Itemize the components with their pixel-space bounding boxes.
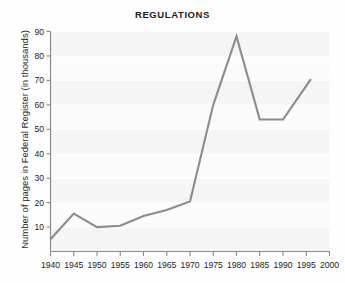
x-tick-label: 1985 (250, 260, 269, 270)
x-tick-label: 1955 (111, 260, 130, 270)
y-tick-label: 10 (34, 222, 44, 232)
y-tick-label: 70 (34, 75, 44, 85)
x-tick-label: 1945 (64, 260, 83, 270)
y-tick-label: 60 (34, 100, 44, 110)
x-tick-label: 2000 (320, 260, 339, 270)
x-tick-label: 1995 (297, 260, 316, 270)
x-tick-label: 1960 (134, 260, 153, 270)
x-tick-label: 1970 (180, 260, 199, 270)
plot-canvas: 102030405060708090 194019451950195519601… (0, 0, 345, 283)
x-axis (51, 252, 330, 257)
y-tick-labels: 102030405060708090 (34, 27, 44, 233)
y-tick-label: 40 (34, 149, 44, 159)
y-tick-label: 80 (34, 51, 44, 61)
y-tick-label: 20 (34, 198, 44, 208)
x-tick-label: 1950 (87, 260, 106, 270)
x-tick-label: 1975 (204, 260, 223, 270)
y-tick-label: 90 (34, 27, 44, 37)
y-tick-label: 50 (34, 124, 44, 134)
x-tick-label: 1965 (157, 260, 176, 270)
regulations-line-chart: REGULATIONS Number of pages in Federal R… (0, 0, 345, 283)
x-tick-label: 1940 (41, 260, 60, 270)
y-axis (47, 32, 51, 252)
x-tick-label: 1980 (227, 260, 246, 270)
y-tick-label: 30 (34, 173, 44, 183)
x-tick-labels: 1940194519501955196019651970197519801985… (41, 260, 339, 270)
x-tick-label: 1990 (273, 260, 292, 270)
